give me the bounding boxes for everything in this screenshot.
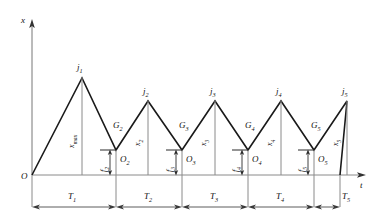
period-label-t1: T1 [68,192,76,201]
origin-mark-o5: O5 [318,155,328,164]
axis-label-x: x [21,16,25,25]
offset-label-f5: f5 [298,167,306,172]
peak-label-j4: j4 [276,87,282,96]
origin-mark-o3: O3 [186,155,196,164]
offset-label-f3: f3 [166,167,174,172]
offset-label-f2: f2 [100,167,108,172]
peak-label-j2: j2 [143,87,149,96]
period-dimension-lines [32,204,340,209]
origin-mark-o4: O4 [252,155,262,164]
figure-container: x t O j1 j2 j3 j4 j5 G2 G3 G4 G5 O2 O3 O… [0,0,386,221]
offset-arrows [108,150,310,176]
amplitude-label-xmax: xmax [68,135,76,148]
amplitude-label-x5: x5 [332,140,340,146]
amplitude-label-x3: x3 [200,140,208,146]
peak-label-j5: j5 [342,87,348,96]
amplitude-label-x2: x2 [134,140,142,146]
x-axis [29,19,35,175]
origin-mark-o2: O2 [120,155,130,164]
peak-label-j1: j1 [77,63,83,72]
axis-label-t: t [360,181,363,190]
valley-label-g5: G5 [311,121,321,130]
period-label-t3: T3 [210,192,218,201]
period-label-t2: T2 [144,192,152,201]
valley-label-g2: G2 [113,121,123,130]
amplitude-label-x4: x4 [266,140,274,146]
peak-label-j3: j3 [210,87,216,96]
period-label-t5: T5 [342,192,350,201]
offset-label-f4: f4 [232,167,240,172]
valley-label-g4: G4 [245,121,255,130]
waveform-diagram [0,0,386,221]
period-label-t4: T4 [276,192,284,201]
origin-label: O [21,172,28,181]
valley-label-g3: G3 [179,121,189,130]
